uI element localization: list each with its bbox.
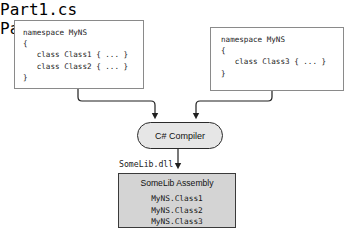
assembly-box: SomeLib Assembly MyNS.Class1 MyNS.Class2… [118,173,236,228]
source-box-part2: namespace MyNS { class Class3 { ... } } [210,27,344,91]
arrow-part2-to-compiler [196,91,272,116]
assembly-title: SomeLib Assembly [119,178,235,188]
compiler-node: C# Compiler [137,122,223,149]
assembly-member-list: MyNS.Class1 MyNS.Class2 MyNS.Class3 [119,193,235,228]
source-code-part2: namespace MyNS { class Class3 { ... } } [221,34,326,79]
arrow-part1-to-compiler [78,89,155,116]
source-box-part1: namespace MyNS { class Class1 { ... } cl… [14,20,144,89]
file-label-part1: Part1.cs [0,0,349,19]
compiler-label: C# Compiler [155,131,205,141]
output-dll-label: SomeLib.dll [119,159,173,169]
source-code-part1: namespace MyNS { class Class1 { ... } cl… [23,27,128,83]
diagram-canvas: Part1.cs namespace MyNS { class Class1 {… [0,0,349,236]
